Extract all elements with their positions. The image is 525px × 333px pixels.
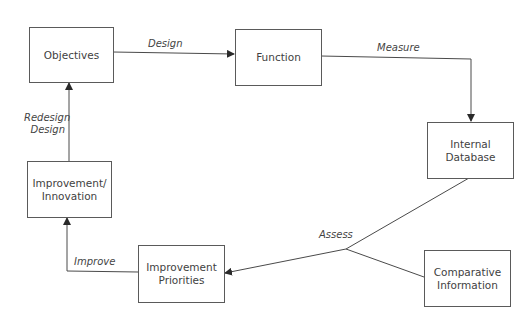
edge-label-assess: Assess [319,229,353,241]
edge-label-improve: Improve [74,256,115,268]
node-improvement-priorities-label: Improvement Priorities [146,261,217,287]
node-improvement-priorities: Improvement Priorities [138,245,225,303]
measure-arrow [321,56,471,121]
edge-label-measure: Measure [377,42,420,54]
node-internal-database-label: Internal Database [445,138,495,164]
node-function: Function [235,29,322,86]
node-function-label: Function [256,51,301,64]
node-improvement-innovation-label: Improvement/ Innovation [32,177,106,203]
node-internal-database: Internal Database [427,122,514,179]
assess-line-from-comparative [346,249,424,277]
node-comparative-information-label: Comparative Information [434,266,502,292]
node-objectives-label: Objectives [44,49,99,62]
design-arrow [113,52,234,54]
node-objectives: Objectives [29,27,114,83]
assess-arrow [225,249,346,273]
node-improvement-innovation: Improvement/ Innovation [27,161,112,218]
assess-line-from-database [346,178,469,249]
edge-label-redesign: Redesign Design [24,112,65,136]
node-comparative-information: Comparative Information [424,250,511,307]
edge-label-design: Design [148,38,183,50]
